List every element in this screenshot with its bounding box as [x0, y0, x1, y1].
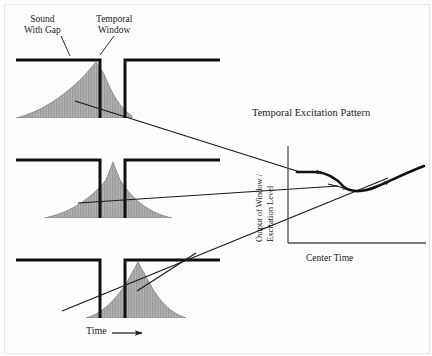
diagram-canvas — [0, 0, 432, 356]
plot-title: Temporal Excitation Pattern — [252, 107, 370, 118]
annotation-sound-with-gap: Sound With Gap — [24, 14, 61, 36]
plot-y-axis-label-line2: Excitation Level — [265, 186, 275, 242]
annotation-temporal-window: Temporal Window — [96, 14, 132, 36]
annotation-sound-with-gap-line2: With Gap — [24, 25, 61, 36]
plot-y-axis-label-line1: Output of Window / — [254, 174, 264, 242]
annotation-sound-with-gap-line1: Sound — [24, 14, 61, 25]
panel-sound-gap-3 — [16, 260, 220, 318]
leader-line-temporal-window — [100, 36, 114, 55]
annotation-temporal-window-line1: Temporal — [96, 14, 132, 25]
figure-root: Sound With Gap Temporal Window Temporal … — [0, 0, 432, 356]
time-axis-label: Time — [86, 325, 107, 336]
curve-arrow-3 — [370, 181, 390, 190]
plot-y-axis-label: Output of Window / Excitation Level — [246, 150, 262, 242]
panel-sound-gap-2 — [16, 160, 220, 218]
excitation-plot-axes — [288, 146, 426, 243]
leader-line-sound-with-gap — [61, 36, 70, 56]
plot-x-axis-label: Center Time — [306, 253, 353, 264]
annotation-temporal-window-line2: Window — [96, 25, 132, 36]
panel-sound-gap-1 — [16, 60, 220, 118]
temporal-window-shape-2 — [44, 162, 172, 218]
temporal-window-shape-1 — [16, 62, 132, 118]
